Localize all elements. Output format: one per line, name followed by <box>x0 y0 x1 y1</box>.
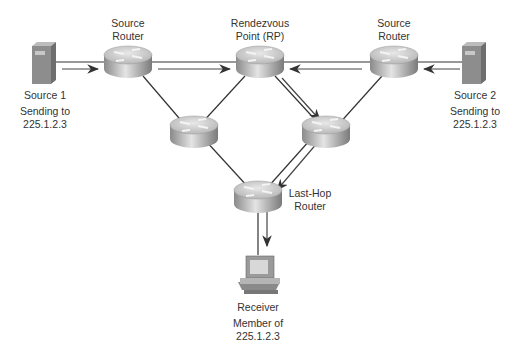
last-hop-router-icon <box>234 181 282 213</box>
receiver-pc-icon <box>238 256 280 294</box>
source2-server-icon <box>462 42 486 84</box>
source1-server-icon <box>32 42 56 84</box>
label-line: 225.1.2.3 <box>226 330 290 343</box>
last-hop-label: Last-Hop Router <box>287 187 333 213</box>
rp-label: Rendezvous Point (RP) <box>225 17 295 43</box>
label-line: Source 1 <box>14 89 76 102</box>
flow-arrows <box>62 69 460 246</box>
source-router-right-icon <box>370 46 418 78</box>
label-line: Source <box>374 17 414 30</box>
source-router-left-icon <box>104 46 152 78</box>
label-line: Source <box>108 17 148 30</box>
middle-left-router-icon <box>170 116 218 148</box>
label-line: Router <box>108 30 148 43</box>
label-line: Router <box>374 30 414 43</box>
label-line: Point (RP) <box>225 30 295 43</box>
source-router-right-label: Source Router <box>374 17 414 43</box>
label-line: Sending to <box>444 105 506 118</box>
label-line: 225.1.2.3 <box>444 118 506 131</box>
label-line: Member of <box>226 317 290 330</box>
label-line: Rendezvous <box>225 17 295 30</box>
label-line: Last-Hop <box>287 187 333 200</box>
label-line: 225.1.2.3 <box>14 118 76 131</box>
label-line: Receiver <box>226 301 290 314</box>
receiver-label: Receiver Member of 225.1.2.3 <box>226 301 290 343</box>
middle-right-router-icon <box>302 116 350 148</box>
links <box>56 62 462 255</box>
label-line: Router <box>287 200 333 213</box>
label-line: Source 2 <box>444 89 506 102</box>
source-router-left-label: Source Router <box>108 17 148 43</box>
label-line: Sending to <box>14 105 76 118</box>
source1-label: Source 1 Sending to 225.1.2.3 <box>14 89 76 131</box>
source2-label: Source 2 Sending to 225.1.2.3 <box>444 89 506 131</box>
rp-router-icon <box>236 46 284 78</box>
